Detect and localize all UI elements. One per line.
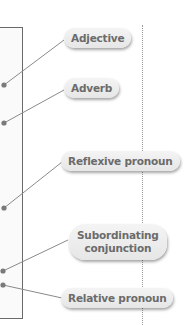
leader-line-adverb — [4, 90, 64, 123]
label-text: Adjective — [71, 32, 124, 44]
anchor-dot-subordinating — [0, 268, 5, 273]
anchor-dot-adjective — [1, 82, 6, 87]
label-subordinating-conjunction: Subordinating conjunction — [69, 224, 167, 260]
label-reflexive-pronoun: Reflexive pronoun — [61, 151, 180, 171]
label-text: Relative pronoun — [68, 292, 166, 304]
leader-line-adjective — [4, 40, 64, 85]
label-text: Reflexive pronoun — [68, 155, 173, 167]
leader-line-relative — [3, 285, 62, 298]
anchor-dot-adverb — [1, 120, 6, 125]
leader-line-subordinating — [3, 240, 68, 271]
label-adjective: Adjective — [64, 28, 131, 48]
anchor-dot-reflexive — [1, 205, 6, 210]
label-text: Adverb — [71, 82, 112, 94]
label-adverb: Adverb — [64, 78, 119, 98]
label-relative-pronoun: Relative pronoun — [61, 288, 173, 308]
label-text-line2: conjunction — [77, 242, 159, 255]
anchor-dot-relative — [0, 282, 5, 287]
leader-line-reflexive — [4, 162, 62, 208]
label-text-line1: Subordinating — [77, 229, 159, 242]
